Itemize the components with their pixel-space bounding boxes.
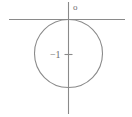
- origin-label: o: [73, 3, 78, 12]
- figure-canvas: [0, 0, 132, 117]
- geometry-figure: o −1: [0, 0, 132, 117]
- center-value-label: −1: [50, 50, 60, 60]
